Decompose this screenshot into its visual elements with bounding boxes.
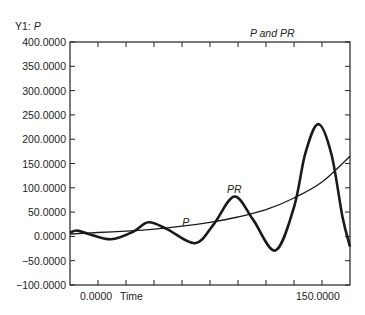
- chart-title: P and PR: [250, 27, 295, 39]
- series-pr-label: PR: [227, 183, 242, 195]
- x-axis-ticks: [98, 42, 322, 285]
- y-axis-ticks: 400.0000350.0000300.0000250.0000200.0000…: [16, 36, 350, 291]
- line-chart: Y1: P P and PR 400.0000350.0000300.00002…: [0, 0, 365, 315]
- y-tick-label: 200.0000: [22, 133, 66, 145]
- y-tick-label: 400.0000: [22, 36, 66, 48]
- x-max-label: 150.0000: [296, 290, 340, 302]
- series-layer: PPR: [70, 124, 350, 251]
- plot-border: [70, 42, 350, 285]
- y-tick-label: 250.0000: [22, 109, 66, 121]
- x-min-label: 0.0000: [80, 290, 112, 302]
- y-tick-label: −100.0000: [16, 279, 66, 291]
- y-tick-label: 150.0000: [22, 158, 66, 170]
- plot-frame: [70, 42, 350, 285]
- y-tick-label: 350.0000: [22, 60, 66, 72]
- series-p-line: [70, 156, 350, 234]
- y-axis-label: Y1: P: [15, 20, 41, 32]
- y-tick-label: 100.0000: [22, 182, 66, 194]
- x-axis-label: Time: [120, 290, 143, 302]
- y-tick-label: −50.0000: [22, 255, 66, 267]
- y-tick-label: 300.0000: [22, 85, 66, 97]
- y-tick-label: 50.0000: [28, 206, 66, 218]
- y-tick-label: 0.0000: [34, 230, 66, 242]
- series-p-label: P: [182, 216, 189, 228]
